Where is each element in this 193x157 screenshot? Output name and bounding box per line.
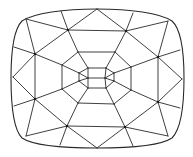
facet-junction <box>66 125 68 127</box>
facet-junction <box>67 29 69 31</box>
facet-junction <box>124 126 126 128</box>
facet-junction <box>34 53 36 55</box>
gem-diagram-canvas <box>0 0 193 157</box>
facet-junction <box>34 98 36 100</box>
facet-junction <box>157 101 159 103</box>
cushion-cut-gem-diagram <box>0 0 193 157</box>
facet-junction <box>157 56 159 58</box>
facet-junction <box>125 30 127 32</box>
